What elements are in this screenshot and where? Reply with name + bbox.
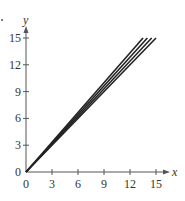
x-tick-label: 3: [49, 177, 55, 191]
x-tick-label: 6: [75, 177, 81, 191]
x-tick-label: 9: [101, 177, 107, 191]
x-tick-label: 12: [124, 177, 136, 191]
x-tick-label: 15: [150, 177, 162, 191]
y-tick-label: 6: [15, 111, 21, 125]
x-axis-arrow-icon: [163, 170, 170, 175]
line-chart: 0369121503691215xy: [0, 0, 185, 201]
y-axis-arrow-icon: [24, 26, 29, 33]
y-tick-label: 3: [15, 138, 21, 152]
y-tick-label: 9: [15, 85, 21, 99]
y-axis-label: y: [22, 13, 29, 27]
y-tick-label: 0: [15, 165, 21, 179]
series-line: [26, 38, 156, 172]
x-tick-label: 0: [23, 177, 29, 191]
marker-dot: [1, 19, 3, 21]
y-tick-label: 15: [9, 31, 21, 45]
series-lines: [26, 38, 156, 172]
x-axis-label: x: [171, 165, 178, 179]
y-tick-label: 12: [9, 58, 21, 72]
